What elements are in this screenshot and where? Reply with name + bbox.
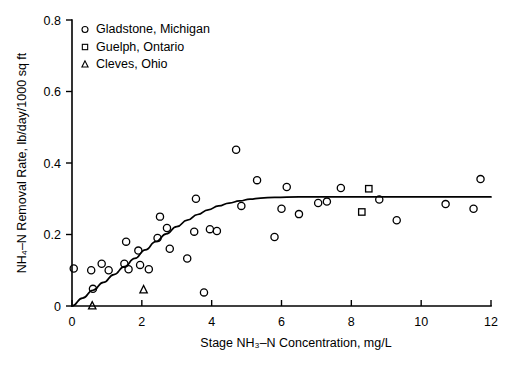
data-point-circle xyxy=(145,266,152,273)
data-point-circle xyxy=(156,213,163,220)
x-tick-label: 0 xyxy=(69,315,76,329)
legend-label: Cleves, Ohio xyxy=(96,57,168,71)
data-point-circle xyxy=(283,183,290,190)
data-point-circle xyxy=(135,247,142,254)
scatter-plot: 00.20.40.60.8 024681012 Gladstone, Michi… xyxy=(0,0,526,365)
data-point-circle xyxy=(323,198,330,205)
data-point-circle xyxy=(393,217,400,224)
series-gladstone-michigan xyxy=(70,146,484,296)
y-tick-label: 0.6 xyxy=(44,85,61,99)
y-tick-label: 0.8 xyxy=(44,14,61,28)
legend: Gladstone, MichiganGuelph, OntarioCleves… xyxy=(82,22,210,71)
x-axis-title: Stage NH₃–N Concentration, mg/L xyxy=(200,336,391,350)
x-axis-ticks: 024681012 xyxy=(69,300,498,329)
data-point-circle xyxy=(470,205,477,212)
series-guelph-ontario xyxy=(359,186,372,216)
data-point-circle xyxy=(295,211,302,218)
x-tick-label: 6 xyxy=(278,315,285,329)
data-point-circle xyxy=(442,201,449,208)
data-point-circle xyxy=(163,224,170,231)
x-tick-label: 4 xyxy=(208,315,215,329)
data-point-circle xyxy=(166,245,173,252)
data-point-circle xyxy=(136,261,143,268)
data-point-circle xyxy=(238,202,245,209)
data-point-circle xyxy=(88,267,95,274)
data-point-circle xyxy=(200,289,207,296)
x-tick-label: 8 xyxy=(348,315,355,329)
x-tick-label: 10 xyxy=(414,315,428,329)
x-tick-label: 2 xyxy=(138,315,145,329)
data-point-circle xyxy=(105,267,112,274)
data-point-circle xyxy=(253,177,260,184)
y-tick-label: 0.2 xyxy=(44,228,61,242)
data-point-circle xyxy=(192,195,199,202)
data-points xyxy=(70,146,484,309)
data-point-circle xyxy=(315,199,322,206)
legend-marker-triangle xyxy=(82,61,88,67)
legend-marker-circle xyxy=(82,27,88,33)
legend-label: Guelph, Ontario xyxy=(96,40,184,54)
y-tick-label: 0.4 xyxy=(44,157,61,171)
data-point-circle xyxy=(271,233,278,240)
data-point-circle xyxy=(278,205,285,212)
data-point-circle xyxy=(98,260,105,267)
data-point-square xyxy=(359,209,365,215)
data-point-circle xyxy=(184,255,191,262)
data-point-circle xyxy=(125,266,132,273)
y-axis-ticks: 00.20.40.60.8 xyxy=(44,14,72,314)
data-point-circle xyxy=(206,226,213,233)
chart-figure: 00.20.40.60.8 024681012 Gladstone, Michi… xyxy=(0,0,526,365)
data-point-circle xyxy=(191,228,198,235)
y-axis-title: NH₄–N Removal Rate, lb/day/1000 sq ft xyxy=(15,52,29,273)
data-point-circle xyxy=(213,227,220,234)
data-point-circle xyxy=(233,146,240,153)
data-point-circle xyxy=(477,175,484,182)
x-tick-label: 12 xyxy=(484,315,498,329)
data-point-circle xyxy=(337,184,344,191)
data-point-triangle xyxy=(140,286,147,293)
legend-marker-square xyxy=(82,44,87,49)
y-tick-label: 0 xyxy=(54,300,61,314)
data-point-square xyxy=(366,186,372,192)
legend-label: Gladstone, Michigan xyxy=(96,22,210,36)
data-point-circle xyxy=(123,238,130,245)
